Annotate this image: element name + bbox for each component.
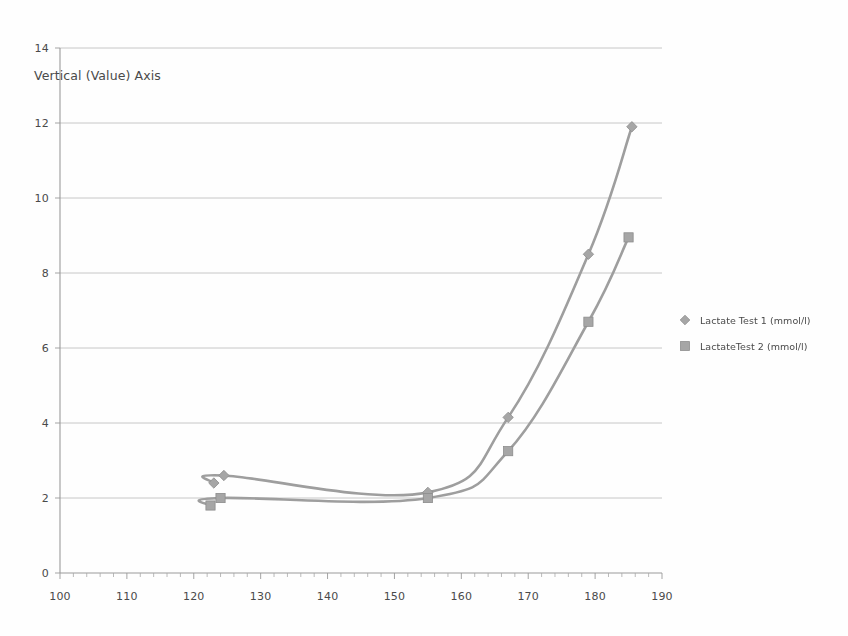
svg-text:12: 12 [35, 117, 49, 130]
svg-text:120: 120 [183, 590, 205, 603]
svg-text:130: 130 [250, 590, 272, 603]
svg-text:2: 2 [42, 492, 49, 505]
svg-text:140: 140 [317, 590, 339, 603]
chart-container: 02468101214 1001101201301401501601701801… [0, 0, 848, 636]
svg-text:150: 150 [384, 590, 406, 603]
vertical-axis-title: Vertical (Value) Axis [34, 68, 161, 83]
lactate-line-chart: 02468101214 1001101201301401501601701801… [0, 0, 848, 636]
svg-text:10: 10 [35, 192, 49, 205]
svg-text:160: 160 [451, 590, 473, 603]
svg-text:170: 170 [517, 590, 539, 603]
legend-label-1: Lactate Test 1 (mmol/l) [700, 315, 811, 326]
svg-text:100: 100 [49, 590, 71, 603]
svg-text:190: 190 [651, 590, 673, 603]
svg-text:4: 4 [42, 417, 49, 430]
svg-text:8: 8 [42, 267, 49, 280]
svg-text:14: 14 [35, 42, 49, 55]
svg-text:110: 110 [116, 590, 138, 603]
svg-text:0: 0 [42, 567, 49, 580]
square-marker-icon [681, 342, 690, 351]
legend-label-2: LactateTest 2 (mmol/l) [700, 341, 808, 352]
svg-text:180: 180 [584, 590, 606, 603]
svg-text:6: 6 [42, 342, 49, 355]
